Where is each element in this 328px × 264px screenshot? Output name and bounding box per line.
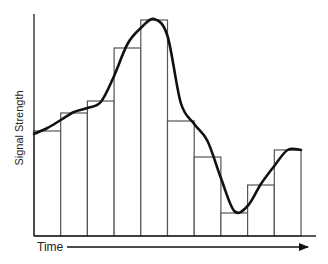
histogram-bar	[274, 150, 301, 236]
histogram-bar	[141, 20, 168, 236]
histogram-bar	[248, 185, 275, 236]
chart-canvas	[0, 0, 328, 264]
histogram-bar	[114, 48, 141, 236]
histogram-bar	[168, 121, 195, 236]
histogram-bar	[87, 101, 114, 236]
histogram-bars	[34, 20, 301, 236]
histogram-bar	[221, 213, 248, 236]
histogram-bar	[34, 131, 61, 236]
histogram-bar	[61, 113, 88, 236]
y-axis-label: Signal Strength	[13, 90, 25, 165]
x-axis-label: Time	[37, 240, 63, 254]
